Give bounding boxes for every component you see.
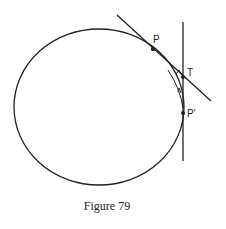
point-t <box>181 75 185 79</box>
label-p: P <box>153 34 160 45</box>
diagram: P T P' <box>0 0 226 229</box>
arc-arrow <box>168 70 183 108</box>
point-p <box>151 47 155 51</box>
label-t: T <box>187 67 193 78</box>
label-p-prime: P' <box>187 108 196 119</box>
point-p-prime <box>181 111 185 115</box>
tangent-line-at-p <box>117 15 211 101</box>
figure-caption: Figure 79 <box>0 199 214 214</box>
